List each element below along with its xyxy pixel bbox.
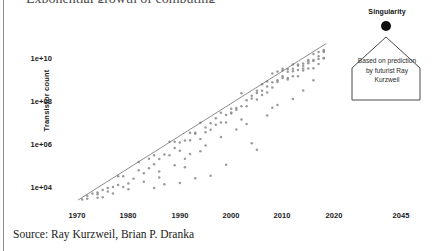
scatter-point [153, 187, 156, 190]
x-tick-label-2045: 2045 [381, 211, 421, 220]
scatter-point [163, 153, 166, 156]
scatter-point [256, 149, 259, 152]
scatter-point [158, 158, 161, 161]
scatter-point [112, 186, 115, 189]
scatter-point [158, 176, 161, 179]
scatter-point [281, 68, 284, 71]
scatter-point-group [81, 49, 325, 201]
scatter-point [194, 177, 197, 180]
scatter-point [240, 118, 243, 121]
scatter-point [127, 188, 130, 191]
scatter-point [220, 121, 223, 124]
scatter-point [317, 51, 320, 54]
scatter-point [189, 153, 192, 156]
scatter-point [312, 53, 315, 56]
scatter-point [158, 170, 161, 173]
scatter-point [153, 163, 156, 166]
scatter-point [209, 122, 212, 125]
x-tick-label-2010: 2010 [262, 211, 302, 220]
scatter-point [251, 97, 254, 100]
scatter-point [184, 139, 187, 142]
scatter-point [302, 67, 305, 70]
scatter-point [215, 123, 218, 126]
scatter-point [317, 63, 320, 66]
scatter-point [235, 128, 238, 131]
scatter-point [297, 65, 300, 68]
scatter-point [276, 81, 279, 84]
scatter-point [245, 105, 248, 108]
scatter-point [209, 129, 212, 132]
scatter-point [261, 94, 264, 97]
scatter-point [302, 65, 305, 68]
scatter-point [209, 175, 212, 178]
scatter-point [312, 67, 315, 70]
x-tick-label-2020: 2020 [314, 211, 354, 220]
scatter-point [292, 70, 295, 73]
scatter-point [276, 104, 279, 107]
scatter-point [271, 81, 274, 84]
scatter-point [220, 136, 223, 139]
scatter-point [173, 164, 176, 167]
scatter-point [271, 86, 274, 89]
y-tick-label-1e04: 1e+04 [8, 183, 52, 192]
singularity-label: Singularity [352, 8, 422, 15]
scatter-point [194, 133, 197, 136]
scatter-point [81, 198, 84, 201]
scatter-point [281, 75, 284, 78]
scatter-point [230, 111, 233, 114]
scatter-point [189, 132, 192, 135]
scatter-point [312, 79, 315, 82]
scatter-point [266, 91, 269, 94]
scatter-point [225, 163, 228, 166]
singularity-dot-icon [381, 21, 391, 31]
scatter-point [86, 198, 89, 201]
scatter-point [225, 121, 228, 124]
scatter-point [96, 197, 99, 200]
scatter-point [235, 109, 238, 112]
scatter-point [189, 139, 192, 142]
scatter-point [317, 55, 320, 58]
scatter-point [276, 70, 279, 73]
slide-canvas: Exponential growth of computing Transist… [0, 0, 433, 251]
scatter-point [163, 183, 166, 186]
x-tick-label-1970: 1970 [57, 211, 97, 220]
scatter-point [101, 196, 104, 199]
scatter-point [204, 144, 207, 147]
x-tick-label-1980: 1980 [108, 211, 148, 220]
scatter-point [297, 75, 300, 78]
scatter-point [302, 89, 305, 92]
scatter-point [215, 117, 218, 120]
scatter-point [107, 190, 110, 193]
scatter-point [256, 92, 259, 95]
scatter-point [225, 114, 228, 117]
scatter-point [292, 98, 295, 101]
scatter-point [112, 192, 115, 195]
scatter-point [184, 157, 187, 160]
scatter-point [122, 175, 125, 178]
scatter-point [204, 126, 207, 129]
scatter-point [101, 189, 104, 192]
scatter-point [122, 186, 125, 189]
scatter-point [240, 105, 243, 108]
scatter-point [251, 95, 254, 98]
x-tick-label-2000: 2000 [211, 211, 251, 220]
scatter-point [251, 142, 254, 145]
scatter-point [204, 131, 207, 134]
scatter-point [230, 107, 233, 110]
trend-line [78, 43, 326, 200]
scatter-point [271, 106, 274, 109]
scatter-point [245, 99, 248, 102]
scatter-point [266, 85, 269, 88]
y-tick-label-1e08: 1e+08 [8, 97, 52, 106]
scatter-point [173, 147, 176, 150]
scatter-point [148, 157, 151, 160]
scatter-point [143, 172, 146, 175]
scatter-point [240, 92, 243, 95]
scatter-point [322, 49, 325, 52]
scatter-point [245, 123, 248, 126]
scatter-point [143, 180, 146, 183]
scatter-point [148, 167, 151, 170]
scatter-point [117, 184, 120, 187]
scatter-point [173, 141, 176, 144]
scatter-point [286, 70, 289, 73]
